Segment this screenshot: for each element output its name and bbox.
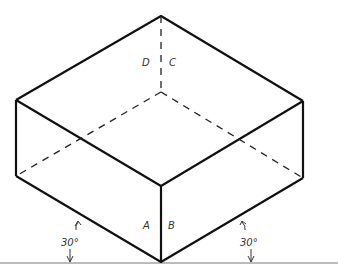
label-d: D <box>142 57 150 68</box>
left-angle-label: 30° <box>61 237 79 248</box>
bottom-edges <box>16 176 303 262</box>
right-angle-label: 30° <box>240 237 258 248</box>
hidden-edges <box>16 16 303 178</box>
isometric-box-diagram: D C A B 30° 30° <box>0 0 338 279</box>
top-face <box>16 16 303 186</box>
label-b: B <box>168 220 175 231</box>
label-a: A <box>142 220 150 231</box>
label-c: C <box>169 57 176 68</box>
